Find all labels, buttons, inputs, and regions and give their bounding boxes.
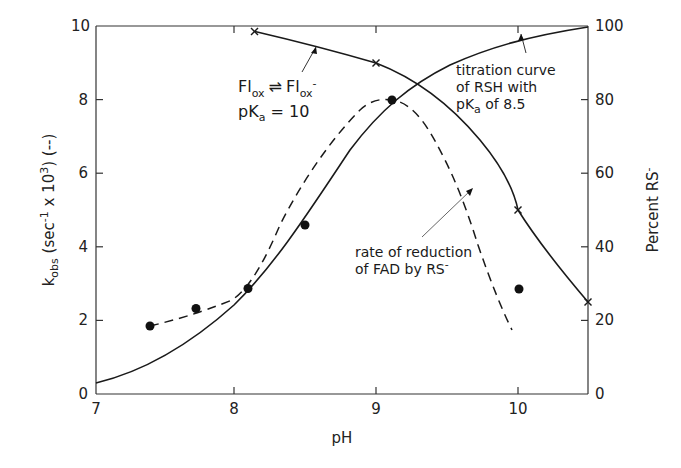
y-left-axis-title: kobs (sec-1 x 103) (--): [38, 134, 61, 287]
y-left-ticks: [96, 100, 103, 321]
chart-canvas: 7 8 9 10 pH 0 2 4 6 8 10 0 20 40 60 80 1…: [0, 0, 681, 468]
svg-text:8: 8: [229, 400, 239, 418]
svg-text:titration curve: titration curve: [456, 62, 556, 78]
annotation-rate-of-reduction: rate of reduction of FAD by RS-: [355, 188, 473, 277]
rate-data-points: [146, 96, 524, 331]
svg-text:20: 20: [595, 311, 614, 329]
svg-text:8: 8: [78, 91, 88, 109]
svg-text:Flox⇌Flox-: Flox⇌Flox-: [238, 77, 317, 100]
annotation-titration-curve: titration curve of RSH with pKa of 8.5: [456, 34, 556, 116]
svg-text:10: 10: [508, 400, 527, 418]
svg-text:6: 6: [78, 164, 88, 182]
svg-text:40: 40: [595, 238, 614, 256]
svg-text:of FAD by RS-: of FAD by RS-: [355, 258, 449, 277]
svg-text:4: 4: [78, 238, 88, 256]
svg-text:pKa = 10: pKa = 10: [238, 102, 309, 124]
svg-text:rate of reduction: rate of reduction: [355, 244, 472, 260]
x-axis-tick-labels: 7 8 9 10: [91, 400, 527, 418]
svg-text:of RSH with: of RSH with: [456, 79, 537, 95]
y-left-tick-labels: 0 2 4 6 8 10: [71, 17, 90, 403]
svg-text:pKa of 8.5: pKa of 8.5: [456, 96, 526, 116]
y-right-axis-title: Percent RS-: [642, 167, 662, 252]
svg-text:0: 0: [78, 385, 88, 403]
rate-of-reduction-dashed-line: [150, 99, 512, 330]
annotation-flavin-equilibrium: Flox⇌Flox- pKa = 10: [238, 47, 317, 124]
y-right-ticks: [581, 100, 588, 321]
svg-text:100: 100: [595, 17, 624, 35]
svg-text:7: 7: [91, 400, 101, 418]
svg-text:10: 10: [71, 17, 90, 35]
svg-text:60: 60: [595, 164, 614, 182]
svg-text:2: 2: [78, 311, 88, 329]
svg-text:9: 9: [371, 400, 381, 418]
svg-text:0: 0: [595, 385, 605, 403]
y-right-tick-labels: 0 20 40 60 80 100: [595, 17, 624, 403]
svg-text:80: 80: [595, 91, 614, 109]
x-axis-title: pH: [332, 429, 353, 447]
